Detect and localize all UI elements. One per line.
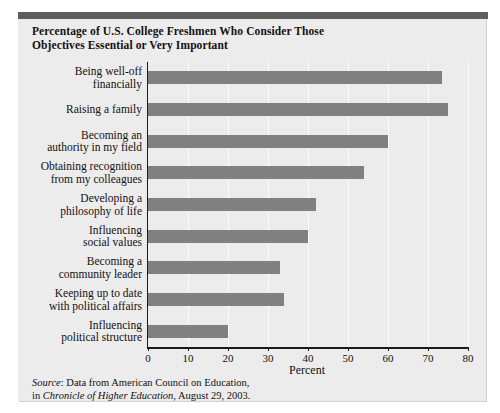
source-line-2: in Chronicle of Higher Education, August… (32, 390, 452, 403)
bar (148, 71, 442, 84)
x-axis-tick (228, 347, 229, 351)
category-label-line: Being well-off (0, 65, 142, 78)
category-label: Being well-offfinancially (0, 65, 142, 90)
x-axis-tick (428, 347, 429, 351)
source-line-1: Source: Data from American Council on Ed… (32, 377, 452, 390)
chart-figure: Percentage of U.S. College Freshmen Who … (0, 0, 500, 413)
x-axis-tick (388, 347, 389, 351)
bar (148, 103, 448, 116)
category-label-line: Obtaining recognition (0, 160, 142, 173)
chart-title-line1: Percentage of U.S. College Freshmen Who … (32, 24, 452, 38)
x-axis-tick (348, 347, 349, 351)
category-label-line: from my colleagues (0, 173, 142, 186)
category-label: Influencingpolitical structure (0, 319, 142, 344)
category-label-line: Influencing (0, 224, 142, 237)
category-label: Developing aphilosophy of life (0, 192, 142, 217)
x-axis-label: Percent (147, 363, 467, 378)
category-label: Obtaining recognitionfrom my colleagues (0, 160, 142, 185)
category-label-line: social values (0, 236, 142, 249)
category-label-line: Keeping up to date (0, 287, 142, 300)
bar (148, 293, 284, 306)
category-label: Becoming anauthority in my field (0, 129, 142, 154)
category-label-line: Becoming a (0, 255, 142, 268)
category-label: Raising a family (0, 103, 142, 116)
category-label-line: Influencing (0, 319, 142, 332)
category-label-line: authority in my field (0, 141, 142, 154)
gridline (468, 62, 469, 347)
source-label: Source (32, 377, 61, 388)
x-axis-tick (308, 347, 309, 351)
category-label-line: community leader (0, 268, 142, 281)
category-label-line: with political affairs (0, 300, 142, 313)
bar (148, 261, 280, 274)
plot-area: 01020304050607080Being well-offfinancial… (147, 62, 468, 347)
bar (148, 230, 308, 243)
category-label: Becoming acommunity leader (0, 255, 142, 280)
bar (148, 325, 228, 338)
bar (148, 198, 316, 211)
x-axis-tick (268, 347, 269, 351)
category-label-line: Raising a family (0, 103, 142, 116)
category-label: Keeping up to datewith political affairs (0, 287, 142, 312)
header-rule (18, 12, 488, 19)
source-line-1-text: : Data from American Council on Educatio… (61, 377, 250, 388)
source-note: Source: Data from American Council on Ed… (32, 377, 452, 402)
category-label-line: Becoming an (0, 129, 142, 142)
x-axis-tick (188, 347, 189, 351)
bar (148, 135, 388, 148)
source-line-2-rest: , August 29, 2003. (173, 390, 250, 401)
x-axis-tick (468, 347, 469, 351)
chart-title-line2: Objectives Essential or Very Important (32, 38, 452, 52)
category-label-line: political structure (0, 331, 142, 344)
category-label: Influencingsocial values (0, 224, 142, 249)
x-axis-line (147, 347, 468, 349)
category-label-line: Developing a (0, 192, 142, 205)
category-label-line: philosophy of life (0, 205, 142, 218)
bar (148, 166, 364, 179)
category-label-line: financially (0, 78, 142, 91)
source-line-2-lead: in (32, 390, 43, 401)
chart-title: Percentage of U.S. College Freshmen Who … (32, 24, 452, 52)
x-axis-tick (148, 347, 149, 351)
source-publication: Chronicle of Higher Education (43, 390, 174, 401)
